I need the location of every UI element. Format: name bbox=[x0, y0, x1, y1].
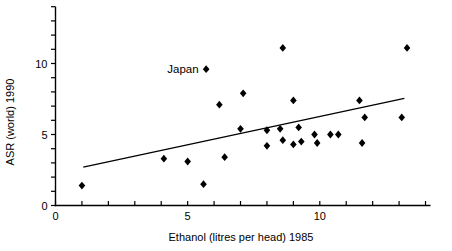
data-point bbox=[404, 44, 411, 52]
x-tick-label: 0 bbox=[52, 210, 58, 222]
data-point bbox=[203, 65, 210, 73]
plot-layer: 05100510Japan bbox=[35, 7, 430, 222]
data-point bbox=[200, 180, 207, 188]
data-point bbox=[314, 139, 321, 147]
data-point bbox=[240, 89, 247, 97]
data-point bbox=[279, 136, 286, 144]
data-point bbox=[295, 124, 302, 132]
y-tick-label: 0 bbox=[41, 200, 47, 212]
data-point bbox=[327, 131, 334, 139]
data-point bbox=[356, 97, 363, 105]
x-tick-label: 10 bbox=[314, 210, 326, 222]
data-point bbox=[398, 114, 405, 122]
data-point bbox=[298, 138, 305, 146]
y-tick-label: 10 bbox=[35, 58, 47, 70]
data-point bbox=[311, 131, 318, 139]
y-axis-title: ASR (world) 1990 bbox=[4, 79, 16, 166]
data-point bbox=[79, 182, 86, 190]
data-point bbox=[279, 44, 286, 52]
data-point bbox=[290, 97, 297, 105]
scatter-plot-figure: 05100510Japan Ethanol (litres per head) … bbox=[0, 0, 452, 251]
x-axis-title: Ethanol (litres per head) 1985 bbox=[169, 231, 314, 243]
y-tick-label: 5 bbox=[41, 129, 47, 141]
data-point bbox=[359, 139, 366, 147]
regression-line bbox=[83, 98, 404, 167]
data-point bbox=[216, 101, 223, 109]
chart-canvas: 05100510Japan Ethanol (litres per head) … bbox=[0, 0, 452, 251]
data-point bbox=[361, 114, 368, 122]
data-point bbox=[290, 141, 297, 149]
data-point bbox=[264, 142, 271, 150]
data-point bbox=[237, 125, 244, 133]
data-point bbox=[335, 131, 342, 139]
japan-point-label: Japan bbox=[167, 63, 198, 75]
data-point bbox=[221, 153, 228, 161]
x-tick-label: 5 bbox=[185, 210, 191, 222]
data-point bbox=[161, 155, 168, 163]
data-point bbox=[184, 158, 191, 166]
